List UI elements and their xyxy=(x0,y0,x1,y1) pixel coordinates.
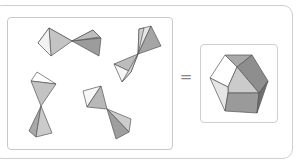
pyramid-pair-3 xyxy=(29,72,56,137)
pyramid-pair-2 xyxy=(114,26,161,82)
solid-front-face xyxy=(225,93,259,113)
hexagonal-solid-illustration xyxy=(201,45,279,124)
equals-sign: = xyxy=(178,69,194,85)
result-solid-panel xyxy=(200,44,278,123)
pyramid-pairs-illustration xyxy=(8,18,174,151)
pyramid-pairs-panel xyxy=(7,17,173,150)
pyramid-pair-1 xyxy=(38,28,101,56)
pyramid-pair-4 xyxy=(83,86,131,139)
